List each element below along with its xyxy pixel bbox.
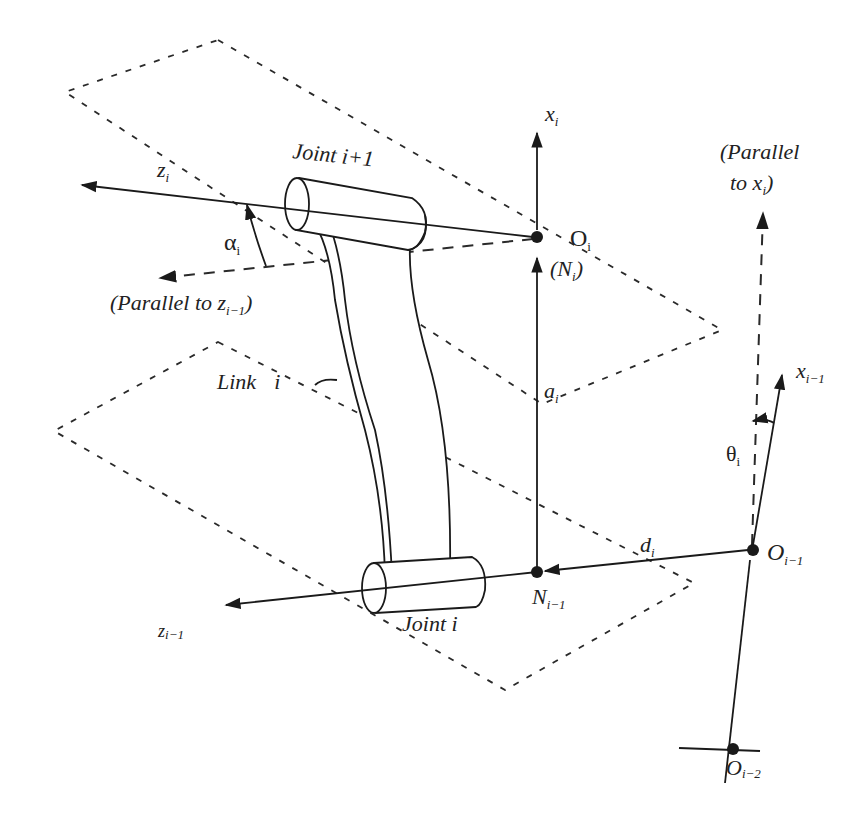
joint-i-plus-1-cylinder [285,178,426,250]
label-n-i: (Ni) [550,256,583,284]
label-z-i: zi [156,157,170,185]
label-alpha-i: αi [224,229,241,258]
link-i-leader [315,380,337,385]
o-i-minus-2-crossbar [679,748,760,751]
label-o-i-minus-1: Oi−1 [767,539,803,568]
label-n-i-minus-1: Ni−1 [531,584,566,612]
joint-i-cylinder [362,557,485,613]
label-joint-i: Joint i [402,611,458,636]
label-x-i: xi [544,101,559,129]
label-x-i-minus-1: xi−1 [795,358,825,386]
label-joint-i-plus-1: Joint i+1 [291,138,375,171]
label-o-i-minus-2: Oi−2 [726,755,761,781]
alpha-i-arc [247,205,266,266]
label-o-i: Oi [570,225,591,254]
label-d-i: di [640,532,655,560]
label-a-i: ai [544,378,559,406]
point-o-i-minus-2 [727,743,739,755]
dh-diagram: zi Joint i+1 xi αi (Parallel to zi−1) Oi… [0,0,866,828]
label-parallel-to-z: (Parallel to zi−1) [110,290,252,318]
point-o-i [531,231,543,243]
link-i-body [316,218,450,575]
label-theta-i: θi [726,441,741,469]
label-z-i-minus-1: zi−1 [157,621,184,642]
label-link-i: Linki [216,369,280,394]
label-parallel-to-x-line2: to xi) [730,170,773,198]
point-o-i-minus-1 [747,544,759,556]
label-parallel-to-x-line1: (Parallel [720,139,799,164]
point-n-i-minus-1 [531,566,543,578]
